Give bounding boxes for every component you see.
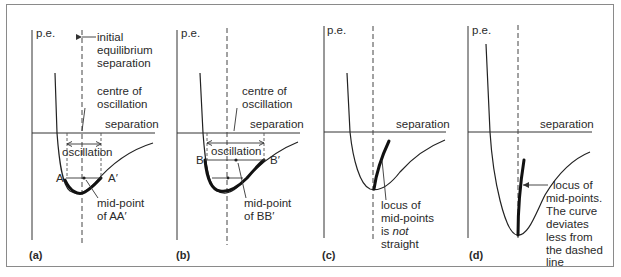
midpoint-dot [82, 176, 85, 179]
svg-text:A: A [56, 172, 64, 184]
svg-text:oscillation: oscillation [62, 146, 113, 158]
potential-energy-diagrams: p.e. initial equilibrium separation cent… [0, 0, 621, 277]
svg-text:A′: A′ [108, 172, 118, 184]
oscillation-arc [205, 160, 264, 191]
svg-text:The curve: The curve [546, 205, 597, 217]
svg-text:oscillation: oscillation [211, 145, 262, 157]
svg-text:of BB′: of BB′ [244, 210, 274, 222]
panel-label: (b) [176, 249, 190, 261]
svg-text:centre of: centre of [242, 85, 288, 97]
svg-text:initial: initial [97, 31, 123, 43]
x-axis-label: separation [105, 118, 159, 130]
svg-text:mid-point: mid-point [97, 197, 145, 209]
locus-of-midpoints [374, 141, 389, 189]
panel-label: (a) [29, 249, 43, 261]
pe-curve [347, 73, 445, 190]
x-axis-label: separation [250, 118, 304, 130]
svg-text:mid-points.: mid-points. [546, 192, 602, 204]
panel-a: p.e. initial equilibrium separation cent… [29, 27, 159, 261]
svg-text:centre of: centre of [97, 85, 143, 97]
svg-text:straight: straight [381, 238, 420, 250]
svg-text:oscillation: oscillation [242, 98, 293, 110]
locus-of-midpoints [518, 160, 524, 235]
panel-b: p.e. centre of oscillation separation os… [176, 27, 304, 261]
svg-text:less from: less from [546, 231, 593, 243]
svg-text:of AA′: of AA′ [97, 210, 127, 222]
svg-text:deviates: deviates [546, 218, 589, 230]
x-axis-label: separation [540, 118, 594, 130]
y-axis-label: p.e. [472, 24, 491, 36]
svg-text:line: line [546, 256, 564, 268]
svg-text:B: B [196, 154, 204, 166]
panel-label: (c) [322, 249, 336, 261]
svg-text:locus of: locus of [553, 179, 593, 191]
svg-text:separation: separation [97, 57, 151, 69]
y-axis-label: p.e. [327, 24, 346, 36]
y-axis-label: p.e. [181, 27, 200, 39]
x-axis-label: separation [396, 118, 450, 130]
svg-text:B′: B′ [270, 154, 280, 166]
panel-d: p.e. separation locus of mid-points. The… [468, 24, 603, 268]
svg-text:mid-point: mid-point [244, 197, 292, 209]
midpoint-dot [234, 158, 237, 161]
svg-text:mid-points: mid-points [381, 212, 434, 224]
panel-label: (d) [469, 249, 483, 261]
panel-c: p.e. separation locus of mid-points is n… [322, 24, 450, 261]
svg-text:is not: is not [381, 225, 409, 237]
svg-text:locus of: locus of [381, 199, 421, 211]
svg-text:oscillation: oscillation [97, 98, 148, 110]
svg-text:the dashed: the dashed [546, 244, 603, 256]
svg-text:equilibrium: equilibrium [97, 44, 153, 56]
y-axis-label: p.e. [36, 27, 55, 39]
